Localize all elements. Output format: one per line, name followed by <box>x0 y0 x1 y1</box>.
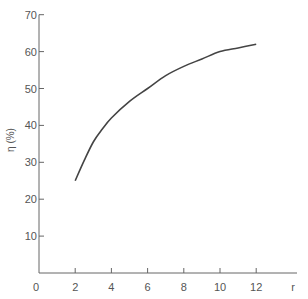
x-tick-label: 12 <box>250 281 262 293</box>
x-tick-label: 8 <box>181 281 187 293</box>
y-tick-label: 50 <box>25 83 37 95</box>
y-tick-label: 20 <box>25 193 37 205</box>
y-tick-label: 70 <box>25 9 37 21</box>
y-tick-label: 10 <box>25 230 37 242</box>
x-axis-label: r <box>291 281 295 293</box>
y-axis-label: η (%) <box>5 128 16 152</box>
x-tick-label: 2 <box>72 281 78 293</box>
x-axis-ticks: 24681012 <box>72 268 262 293</box>
efficiency-curve <box>75 44 256 181</box>
origin-label: 0 <box>33 281 39 293</box>
y-axis-ticks: 10203040506070 <box>25 9 44 242</box>
x-tick-label: 6 <box>145 281 151 293</box>
axes <box>39 15 297 273</box>
y-tick-label: 40 <box>25 119 37 131</box>
y-tick-label: 60 <box>25 46 37 58</box>
line-chart: 24681012 10203040506070 0 r η (%) <box>0 0 308 299</box>
x-tick-label: 4 <box>108 281 114 293</box>
y-tick-label: 30 <box>25 156 37 168</box>
x-tick-label: 10 <box>214 281 226 293</box>
